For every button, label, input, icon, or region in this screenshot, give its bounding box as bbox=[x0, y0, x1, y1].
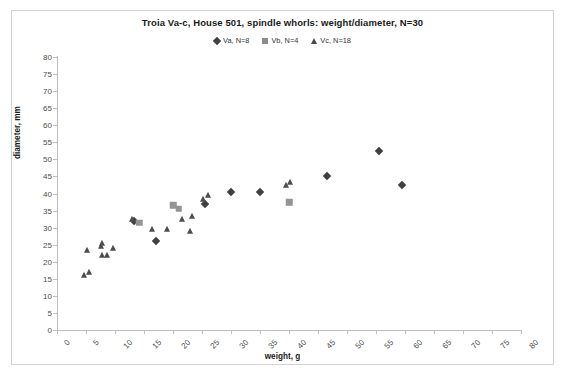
data-point bbox=[136, 219, 143, 226]
data-point bbox=[151, 237, 159, 245]
x-axis-tick bbox=[289, 330, 290, 334]
y-axis-tick bbox=[53, 108, 57, 109]
y-axis-tick-label: 5 bbox=[48, 308, 52, 317]
x-axis-tick bbox=[376, 330, 377, 334]
legend-label: Vc, N=18 bbox=[320, 36, 351, 45]
data-point bbox=[86, 269, 92, 275]
x-axis-tick bbox=[144, 330, 145, 334]
data-point bbox=[164, 226, 170, 232]
data-point bbox=[110, 245, 116, 251]
x-axis-tick bbox=[434, 330, 435, 334]
x-axis-tick bbox=[86, 330, 87, 334]
data-point bbox=[227, 188, 235, 196]
y-axis-tick bbox=[53, 125, 57, 126]
plot-area: 0510152025303540455055606570758005101520… bbox=[57, 57, 521, 330]
data-point bbox=[129, 216, 135, 222]
chart-title: Troia Va-c, House 501, spindle whorls: w… bbox=[0, 17, 565, 28]
x-axis-tick bbox=[231, 330, 232, 334]
y-axis-tick-label: 30 bbox=[43, 223, 52, 232]
diamond-marker-icon bbox=[213, 36, 221, 44]
y-axis-tick-label: 35 bbox=[43, 206, 52, 215]
y-axis-tick bbox=[53, 74, 57, 75]
data-point bbox=[179, 216, 185, 222]
y-axis-tick-label: 50 bbox=[43, 155, 52, 164]
y-axis-tick-label: 70 bbox=[43, 87, 52, 96]
x-axis-tick bbox=[405, 330, 406, 334]
data-point bbox=[287, 178, 293, 184]
chart-legend: Va, N=8Vb, N=4Vc, N=18 bbox=[0, 36, 565, 45]
y-axis-tick bbox=[53, 57, 57, 58]
x-axis-title: weight, g bbox=[0, 352, 565, 361]
x-axis-tick bbox=[260, 330, 261, 334]
y-axis-tick bbox=[53, 211, 57, 212]
legend-label: Va, N=8 bbox=[223, 36, 249, 45]
x-axis-tick bbox=[492, 330, 493, 334]
x-axis-tick bbox=[202, 330, 203, 334]
data-point bbox=[149, 226, 155, 232]
data-point bbox=[104, 252, 110, 258]
y-axis-tick bbox=[53, 91, 57, 92]
y-axis-tick bbox=[53, 279, 57, 280]
x-axis-tick bbox=[115, 330, 116, 334]
y-axis-tick bbox=[53, 296, 57, 297]
y-axis-tick-label: 60 bbox=[43, 121, 52, 130]
x-axis-tick bbox=[347, 330, 348, 334]
y-axis-title: diameter, mm bbox=[13, 106, 22, 159]
y-axis-tick-label: 0 bbox=[48, 326, 52, 335]
y-axis-tick-label: 80 bbox=[43, 53, 52, 62]
legend-entry: Vb, N=4 bbox=[262, 36, 298, 45]
y-axis-tick-label: 75 bbox=[43, 70, 52, 79]
y-axis-tick-label: 20 bbox=[43, 257, 52, 266]
y-axis-tick bbox=[53, 262, 57, 263]
legend-entry: Va, N=8 bbox=[214, 36, 249, 45]
legend-label: Vb, N=4 bbox=[271, 36, 298, 45]
y-axis-tick bbox=[53, 313, 57, 314]
x-axis-tick bbox=[521, 330, 522, 334]
data-point bbox=[189, 212, 195, 218]
legend-entry: Vc, N=18 bbox=[311, 36, 351, 45]
x-axis-tick bbox=[463, 330, 464, 334]
data-point bbox=[176, 206, 183, 213]
y-axis-tick bbox=[53, 176, 57, 177]
triangle-marker-icon bbox=[311, 38, 317, 44]
x-axis-tick bbox=[318, 330, 319, 334]
y-axis-tick-label: 55 bbox=[43, 138, 52, 147]
y-axis-tick bbox=[53, 159, 57, 160]
chart-figure: Troia Va-c, House 501, spindle whorls: w… bbox=[0, 0, 565, 376]
y-axis-tick bbox=[53, 245, 57, 246]
square-marker-icon bbox=[262, 38, 268, 44]
data-point bbox=[205, 192, 211, 198]
y-axis-tick bbox=[53, 228, 57, 229]
y-axis-tick-label: 25 bbox=[43, 240, 52, 249]
data-point bbox=[187, 228, 193, 234]
data-point bbox=[286, 199, 293, 206]
data-point bbox=[398, 181, 406, 189]
y-axis-tick-label: 15 bbox=[43, 274, 52, 283]
y-axis-tick-label: 65 bbox=[43, 104, 52, 113]
data-point bbox=[322, 172, 330, 180]
x-axis-tick bbox=[173, 330, 174, 334]
data-point bbox=[256, 188, 264, 196]
y-axis-tick bbox=[53, 142, 57, 143]
y-axis-tick bbox=[53, 194, 57, 195]
x-axis-tick bbox=[57, 330, 58, 334]
y-axis-tick-label: 45 bbox=[43, 172, 52, 181]
data-point bbox=[375, 147, 383, 155]
y-axis-tick-label: 40 bbox=[43, 189, 52, 198]
y-axis-tick-label: 10 bbox=[43, 291, 52, 300]
data-point bbox=[84, 246, 90, 252]
data-point bbox=[99, 240, 105, 246]
